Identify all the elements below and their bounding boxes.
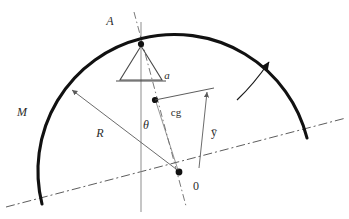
diagram-canvas: A M R θ a cg ȳ 0 [0,0,349,219]
label-mass: M [16,105,28,119]
pivot-point-marker [138,41,144,47]
label-offset: a [164,69,170,81]
label-cg: cg [171,106,182,118]
mechanics-diagram: A M R θ a cg ȳ 0 [0,0,349,219]
label-origin: 0 [193,179,199,193]
ground-baseline-dashdot [6,118,346,207]
label-radius: R [95,126,104,140]
cg-reference-tick [155,88,214,100]
label-angle: θ [143,118,149,132]
radius-arrow [72,90,176,169]
ybar-arrow [199,92,207,168]
label-pivot: A [105,14,114,28]
semicircular-arc [38,34,307,204]
origin-point-marker [176,169,183,176]
label-ybar: ȳ [211,125,217,139]
